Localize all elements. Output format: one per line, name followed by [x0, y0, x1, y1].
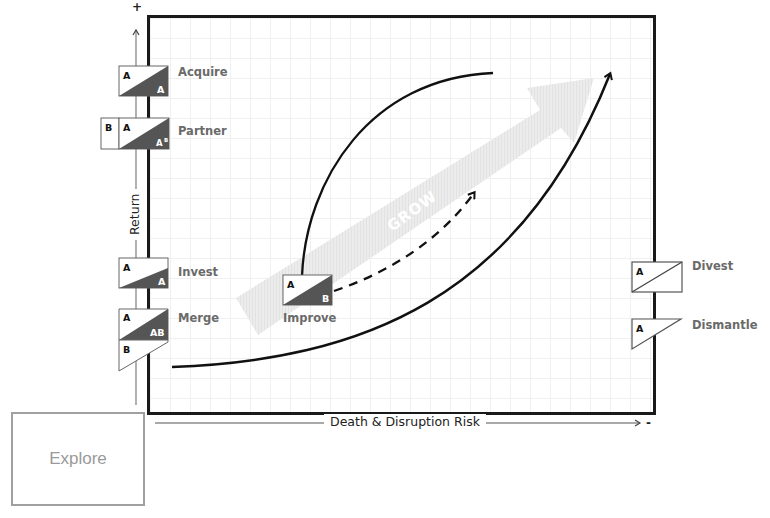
svg-text:B: B: [123, 344, 130, 355]
merge-icon: A AB B: [119, 309, 168, 371]
divest-icon: A: [632, 262, 682, 292]
y-axis-label: Return: [127, 189, 142, 240]
svg-text:A: A: [123, 70, 131, 81]
strategy-matrix-diagram: GROW A A B A A B A: [0, 0, 770, 518]
dismantle-label: Dismantle: [692, 318, 758, 332]
explore-box: Explore: [11, 412, 145, 506]
x-axis-label: Death & Disruption Risk: [324, 414, 486, 429]
invest-icon: A A: [119, 258, 168, 288]
x-axis-minus-marker: -: [646, 416, 651, 430]
svg-text:A: A: [287, 279, 295, 290]
svg-text:A: A: [156, 138, 163, 148]
svg-text:A: A: [158, 276, 166, 287]
improve-icon: A B: [283, 275, 332, 305]
svg-text:AB: AB: [150, 327, 165, 338]
svg-text:B: B: [164, 137, 168, 143]
partner-icon: B A A B: [101, 118, 169, 149]
svg-text:A: A: [123, 312, 131, 323]
divest-label: Divest: [692, 259, 733, 273]
svg-text:A: A: [157, 84, 165, 95]
acquire-icon: A A: [119, 66, 168, 96]
explore-label: Explore: [49, 449, 107, 469]
merge-label: Merge: [178, 311, 219, 325]
acquire-label: Acquire: [178, 65, 228, 79]
dismantle-icon: A: [632, 319, 681, 349]
partner-label: Partner: [178, 124, 227, 138]
invest-label: Invest: [178, 265, 218, 279]
svg-text:A: A: [123, 122, 131, 133]
svg-text:A: A: [636, 323, 644, 334]
svg-text:A: A: [123, 262, 131, 273]
improve-label: Improve: [283, 311, 336, 325]
svg-text:A: A: [636, 266, 644, 277]
y-axis-plus-marker: +: [132, 0, 142, 14]
svg-text:B: B: [322, 293, 329, 304]
svg-text:B: B: [105, 122, 112, 133]
